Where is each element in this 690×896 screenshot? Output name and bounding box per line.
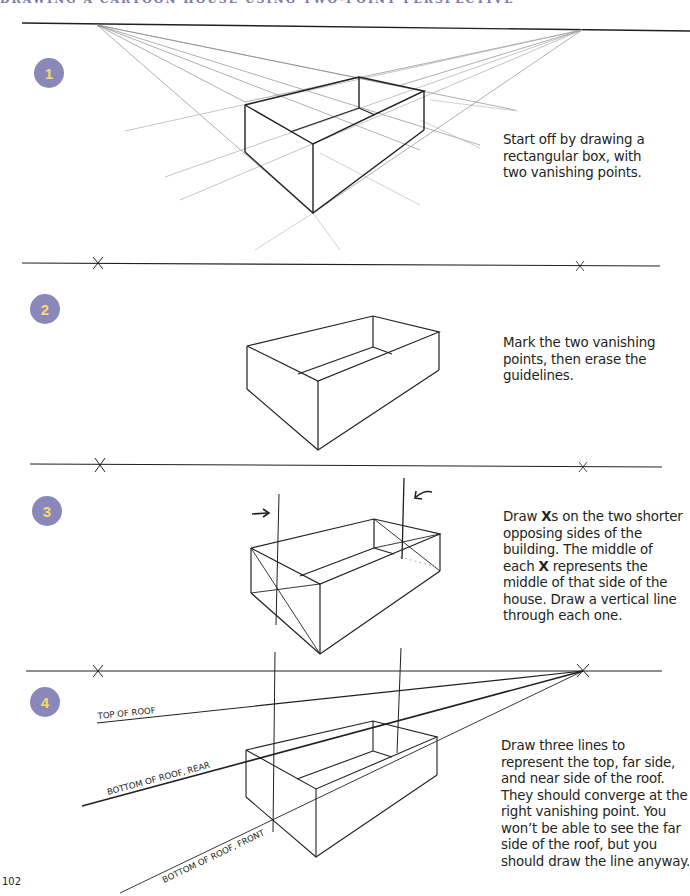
roof-line-top xyxy=(97,671,583,723)
step-badge-1: 1 xyxy=(34,58,64,88)
box-step-2 xyxy=(247,316,439,450)
horizon-line xyxy=(22,263,660,266)
box-step-3 xyxy=(251,519,440,654)
guidelines-right-vp xyxy=(125,30,582,213)
page-number: 102 xyxy=(2,876,21,887)
arrow-right-icon xyxy=(252,509,269,517)
box-step-4 xyxy=(246,721,437,857)
step-badge-4: 4 xyxy=(30,687,60,717)
x-symbol: X xyxy=(539,559,549,574)
step-badge-2: 2 xyxy=(30,294,60,324)
vertical-center-line-right xyxy=(402,478,404,559)
vertical-center-line-left xyxy=(276,494,279,625)
step-4-caption: Draw three lines to represent the top, f… xyxy=(501,738,690,870)
box-step-1 xyxy=(245,77,424,213)
step-2-caption: Mark the two vanishing points, then eras… xyxy=(503,335,673,385)
roof-label-top: TOP OF ROOF xyxy=(96,705,156,721)
guidelines-left-vp xyxy=(97,25,518,250)
roof-label-rear: BOTTOM OF ROOF, REAR xyxy=(106,760,211,797)
vertical-center-line-right xyxy=(397,648,401,753)
horizon-line xyxy=(30,464,662,467)
vertical-center-line-left xyxy=(273,652,275,832)
vanishing-point-left-marker xyxy=(95,458,105,472)
step-1-caption: Start off by drawing a rectangular box, … xyxy=(503,132,668,182)
roof-label-front: BOTTOM OF ROOF, FRONT xyxy=(161,827,267,885)
x-symbol: X xyxy=(541,509,551,524)
step-badge-3: 3 xyxy=(32,496,62,526)
step-3-caption: Draw Xs on the two shorter opposing side… xyxy=(503,509,683,625)
arrow-left-icon xyxy=(415,491,432,499)
